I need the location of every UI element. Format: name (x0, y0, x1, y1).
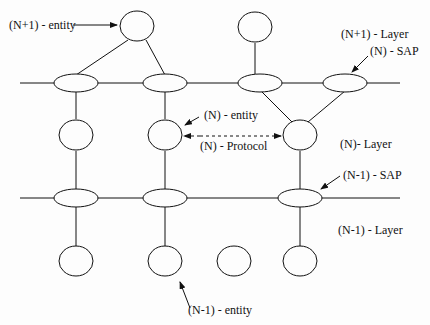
n-plus-1-entity-node (120, 11, 154, 41)
n-minus-1-entity-label: (N-1) - entity (188, 303, 252, 317)
n-entity-node (283, 120, 317, 150)
n-plus-1-entity-label: (N+1) - entity (9, 18, 76, 32)
n-minus-1-layer-label: (N-1) - Layer (338, 223, 403, 237)
n-minus-1-sap-node (54, 189, 98, 207)
n-plus-1-layer-label: (N+1) - Layer (341, 27, 408, 41)
n-entity-node (59, 120, 93, 150)
n-entity-node (148, 120, 182, 150)
osi-layer-diagram: (N+1) - entity (N+1) - Layer (N) - SAP (… (0, 0, 430, 325)
n-minus-1-sap-node (143, 189, 187, 207)
n-sap-node (238, 74, 282, 92)
n-sap-node (323, 74, 367, 92)
n-sap-node (143, 74, 187, 92)
n-minus-1-sap-label: (N-1) - SAP (343, 168, 402, 182)
n-layer-label: (N)- Layer (340, 137, 392, 151)
n-plus-1-entity-node (238, 12, 272, 42)
n-sap-arrow (352, 56, 368, 72)
n-minus-1-sap-node (278, 189, 322, 207)
n-sap-node (54, 74, 98, 92)
n-minus-1-entity-node (148, 246, 182, 276)
n-entity-label: (N) - entity (204, 108, 258, 122)
diagram-graphics (0, 0, 430, 325)
n-minus-1-sap-arrow (321, 176, 340, 189)
n-sap-label: (N) - SAP (370, 44, 419, 58)
n-entity-arrow (185, 117, 199, 125)
n-minus-1-entity-node (217, 246, 251, 276)
n-protocol-label: (N) - Protocol (200, 139, 267, 153)
n-minus-1-entity-node (283, 246, 317, 276)
n-minus-1-entity-node (59, 246, 93, 276)
